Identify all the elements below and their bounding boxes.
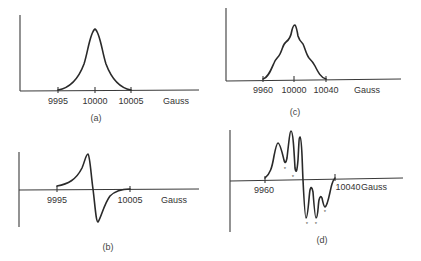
panel-a-x-axis <box>20 90 199 91</box>
panel-b-derivative-curve <box>57 154 130 222</box>
panel-b <box>19 152 199 227</box>
panel-c-hyperfine-absorption-curve <box>263 25 326 79</box>
panel-d-hyperfine-derivative-curve <box>265 131 335 218</box>
panel-d-unit-label: Gauss <box>361 182 387 192</box>
panel-a-unit-label: Gauss <box>163 96 189 106</box>
panel-b-caption: (b) <box>103 242 114 252</box>
panel-b-unit-label: Gauss <box>161 195 187 205</box>
panel-c-caption: (c) <box>290 107 301 117</box>
panel-c-unit-label: Gauss <box>354 85 380 95</box>
panel-d-marker-3: * <box>306 221 308 227</box>
panel-d-x-axis <box>230 178 403 181</box>
panel-b-tick-label-10005: 10005 <box>117 195 142 205</box>
panel-d-marker-5: * <box>324 209 326 215</box>
panel-d <box>230 130 403 232</box>
panel-d-tick-label-9960: 9960 <box>254 185 274 195</box>
panel-a <box>20 15 199 93</box>
panel-c-tick-label-9960: 9960 <box>253 85 273 95</box>
panel-d-marker-1: * <box>284 166 286 172</box>
panel-a-tick-label-9995: 9995 <box>48 96 68 106</box>
panel-d-tick-label-10040: 10040 <box>335 182 360 192</box>
panel-a-tick-label-10005: 10005 <box>118 96 143 106</box>
panel-c <box>226 8 401 82</box>
panel-a-tick-label-10000: 10000 <box>82 96 107 106</box>
panel-a-absorption-curve <box>58 29 131 90</box>
panel-d-marker-4: * <box>315 221 317 227</box>
panel-d-marker-2: * <box>292 174 294 180</box>
panel-d-caption: (d) <box>317 235 328 245</box>
panel-c-tick-label-10000: 10000 <box>281 85 306 95</box>
panel-b-tick-label-9995: 9995 <box>47 195 67 205</box>
diagram-canvas <box>0 0 421 261</box>
panel-a-caption: (a) <box>91 113 102 123</box>
panel-b-x-axis <box>19 189 199 190</box>
panel-c-tick-label-10040: 10040 <box>313 85 338 95</box>
panel-c-x-axis <box>226 79 401 81</box>
